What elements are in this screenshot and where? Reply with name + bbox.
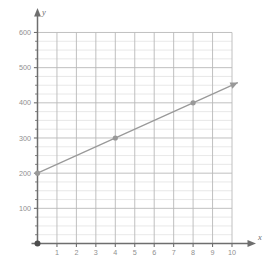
x-tick-label: 4 bbox=[113, 248, 117, 257]
x-axis-label: x bbox=[257, 232, 262, 242]
data-point bbox=[35, 171, 40, 176]
data-point bbox=[191, 100, 196, 105]
x-tick-label: 3 bbox=[94, 248, 98, 257]
x-tick-label: 9 bbox=[211, 248, 215, 257]
data-point bbox=[113, 135, 118, 140]
x-tick-label: 6 bbox=[152, 248, 156, 257]
x-tick-label: 7 bbox=[172, 248, 176, 257]
line-chart: 100200300400500600 12345678910 y x bbox=[0, 0, 268, 269]
y-axis-tick-labels: 100200300400500600 bbox=[19, 28, 31, 213]
chart-canvas: 100200300400500600 12345678910 y x bbox=[0, 0, 268, 269]
x-axis-tick-labels: 12345678910 bbox=[55, 248, 236, 257]
x-tick-label: 1 bbox=[55, 248, 59, 257]
y-axis-label: y bbox=[41, 7, 46, 17]
y-tick-label: 200 bbox=[19, 169, 31, 178]
y-tick-label: 400 bbox=[19, 98, 31, 107]
x-tick-label: 8 bbox=[191, 248, 195, 257]
x-axis bbox=[32, 240, 257, 247]
x-tick-label: 5 bbox=[133, 248, 137, 257]
y-tick-label: 300 bbox=[19, 134, 31, 143]
x-tick-label: 10 bbox=[228, 248, 236, 257]
x-tick-label: 2 bbox=[74, 248, 78, 257]
y-tick-label: 100 bbox=[19, 204, 31, 213]
data-line bbox=[38, 83, 238, 174]
y-tick-label: 500 bbox=[19, 63, 31, 72]
origin-marker bbox=[35, 241, 41, 247]
y-tick-label: 600 bbox=[19, 28, 31, 37]
